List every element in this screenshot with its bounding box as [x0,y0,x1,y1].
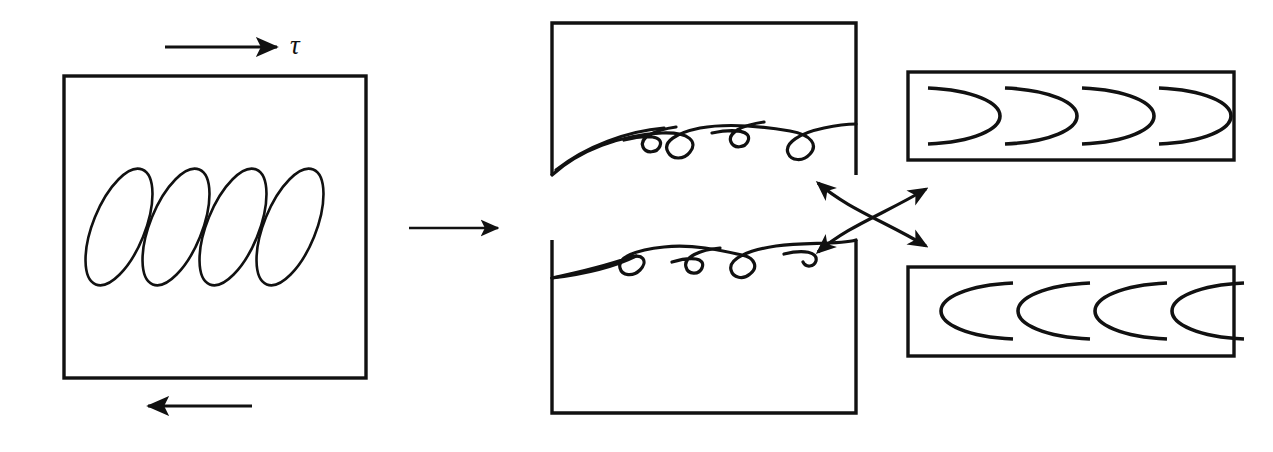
shear-band-group [72,160,338,294]
dimple-open-left [1005,88,1077,144]
dimple-open-left [928,88,1000,144]
lower-dimple-row [941,283,1244,339]
lower-surface-hook [672,248,720,273]
upper-surface-ridge-front [552,124,856,175]
left-panel-group [64,47,366,406]
dimple-open-right [1018,283,1090,339]
shear-band-ellipse [243,160,338,294]
crossing-arrow-se-nw [818,183,926,246]
diagram-canvas [0,0,1273,452]
shear-band-ellipse [186,160,281,294]
tau-symbol-label: τ [290,32,300,59]
dimple-open-left [1159,88,1231,144]
top-inset-group [908,72,1234,160]
shear-block-outline [64,76,366,378]
shear-band-ellipse [129,160,224,294]
shear-band-ellipse [72,160,167,294]
middle-panel-group [552,23,856,413]
lower-surface-ridge-front [552,240,856,278]
dimple-open-right [941,283,1013,339]
dimple-open-left [1082,88,1154,144]
upper-dimple-row [928,88,1231,144]
bottom-inset-group [908,267,1244,356]
upper-dimple-inset-outline [908,72,1234,160]
lower-surface-hook [784,252,816,266]
dimple-open-right [1095,283,1167,339]
fracture-diagram-figure: τ [0,0,1273,452]
lower-dimple-inset-outline [908,267,1234,356]
